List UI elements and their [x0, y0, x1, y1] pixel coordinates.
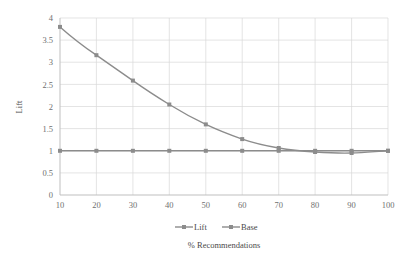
x-tick-label: 10: [56, 200, 65, 210]
y-tick-label: 1.5: [42, 124, 53, 134]
y-tick-label: 1: [49, 146, 53, 156]
y-tick-label: 2.5: [42, 80, 53, 90]
x-tick-label: 20: [92, 200, 101, 210]
legend-marker-base: [229, 225, 233, 229]
chart-figure: 4 3.5 3 2.5 2 1.5 1 0.5 0 10 20 30 40 50…: [0, 0, 414, 255]
y-tick-label: 2: [49, 102, 53, 112]
x-tick-label: 50: [202, 200, 211, 210]
y-tick-label: 3: [49, 57, 53, 67]
x-tick-label: 30: [129, 200, 138, 210]
legend-label-lift: Lift: [194, 222, 207, 232]
y-tick-label: 0: [49, 190, 53, 200]
x-tick-label: 90: [347, 200, 356, 210]
y-axis-title: Lift: [14, 100, 24, 113]
x-tick-label: 40: [165, 200, 174, 210]
x-axis-title: % Recommendations: [188, 240, 260, 250]
y-tick-label: 3.5: [42, 35, 53, 45]
x-tick-label: 100: [382, 200, 395, 210]
legend-marker-lift: [182, 225, 186, 229]
y-tick-label: 0.5: [42, 168, 53, 178]
x-tick-label: 80: [311, 200, 320, 210]
x-tick-label: 70: [274, 200, 283, 210]
legend-label-base: Base: [241, 222, 258, 232]
x-tick-label: 60: [238, 200, 247, 210]
line-chart-svg: 4 3.5 3 2.5 2 1.5 1 0.5 0 10 20 30 40 50…: [0, 0, 414, 255]
